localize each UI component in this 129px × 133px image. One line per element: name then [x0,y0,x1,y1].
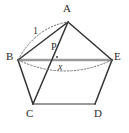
vertex-label-e: E [114,51,121,62]
point-label-p: P [51,42,57,52]
geometry-canvas [0,0,129,133]
vertex-label-b: B [6,51,13,62]
segment-ae [68,22,112,60]
vertex-label-a: A [63,3,71,14]
measure-label-x: x [58,62,62,72]
segment-bc [18,60,33,104]
measure-label-one: 1 [33,26,38,36]
vertex-label-d: D [94,108,102,119]
arc-be-dotted [18,60,112,71]
segment-ed [95,60,112,104]
geometry-figure: A B E C D P 1 x [0,0,129,133]
vertex-label-c: C [26,108,33,119]
point-p-marker [56,56,58,58]
segment-ac [33,22,68,104]
